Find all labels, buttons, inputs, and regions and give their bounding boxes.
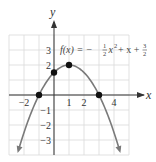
y-tick-label: 3 — [46, 45, 51, 56]
axes — [9, 20, 145, 155]
x-axis-label: x — [145, 88, 152, 102]
x-tick-label: 4 — [112, 97, 117, 108]
y-tick-label: −1 — [40, 105, 51, 116]
function-exponent: 2 — [114, 42, 117, 49]
y-tick-label: 2 — [46, 60, 51, 71]
frac2-denominator: 2 — [143, 50, 146, 57]
x-axis-arrow-icon — [137, 92, 145, 98]
frac1-numerator: 1 — [103, 42, 106, 49]
x-tick-label: 1 — [67, 97, 72, 108]
data-point — [36, 92, 42, 98]
frac2-numerator: 3 — [143, 42, 146, 49]
function-label-tail: + x + — [118, 44, 140, 55]
function-label: f(x) = − 1 2 x 2 + x + 3 2 — [60, 42, 147, 57]
right-arrowhead-icon — [116, 145, 122, 153]
y-tick-label: −3 — [40, 135, 51, 146]
y-axis-arrow-icon — [51, 20, 57, 28]
x-tick-label: −2 — [19, 97, 30, 108]
function-graph: −212432−1−2−3 x y f(x) = − 1 2 x 2 + x +… — [0, 0, 156, 162]
y-axis-label: y — [49, 5, 56, 19]
svg-text:f(x) = −: f(x) = − — [60, 44, 92, 56]
x-tick-label: 2 — [82, 97, 87, 108]
data-point — [51, 69, 57, 75]
function-label-prefix: f(x) = − — [60, 44, 92, 56]
function-x-squared: x — [108, 44, 114, 55]
left-arrowhead-icon — [17, 145, 23, 153]
data-point — [66, 62, 72, 68]
y-tick-label: −2 — [40, 120, 51, 131]
data-point — [96, 92, 102, 98]
frac1-denominator: 2 — [103, 50, 106, 57]
